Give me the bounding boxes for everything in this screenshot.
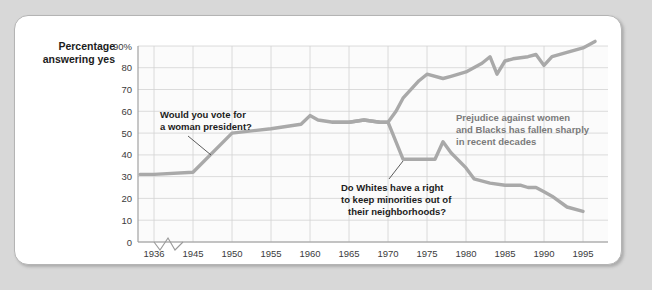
- x-tick-1960: 1960: [299, 248, 320, 259]
- x-tick-1936: 1936: [143, 248, 164, 259]
- x-tick-1990: 1990: [533, 248, 554, 259]
- x-tick-1950: 1950: [221, 248, 242, 259]
- y-axis-title-line1: Percentage: [58, 40, 115, 52]
- annotation-whites-neighborhoods-line2: to keep minorities out of: [341, 194, 452, 205]
- chart-panel: 0 10 20 30 40 50 60 70 80 90% 1936 1945 …: [14, 15, 622, 265]
- x-tick-1995: 1995: [572, 248, 593, 259]
- x-tick-1970: 1970: [377, 248, 398, 259]
- line-chart: 0 10 20 30 40 50 60 70 80 90% 1936 1945 …: [15, 16, 621, 264]
- x-tick-1985: 1985: [494, 248, 515, 259]
- y-tick-40: 40: [121, 149, 132, 160]
- annotation-prejudice-line2: and Blacks has fallen sharply: [456, 124, 590, 135]
- y-tick-90: 90%: [113, 41, 133, 52]
- y-axis-title: Percentage answering yes: [43, 40, 116, 65]
- y-tick-30: 30: [121, 171, 132, 182]
- x-axis-tick-labels: 1936 1945 1950 1955 1960 1965 1970 1975 …: [143, 248, 593, 259]
- x-tick-1975: 1975: [416, 248, 437, 259]
- y-axis-title-line2: answering yes: [43, 53, 116, 65]
- x-tick-1955: 1955: [260, 248, 281, 259]
- annotation-prejudice-line1: Prejudice against women: [456, 112, 570, 123]
- y-tick-60: 60: [121, 106, 132, 117]
- y-tick-80: 80: [121, 62, 132, 73]
- y-axis-tick-labels: 0 10 20 30 40 50 60 70 80 90%: [113, 41, 133, 248]
- x-axis-title: Year: [362, 262, 384, 264]
- annotation-whites-neighborhoods-line3: their neighborhoods?: [348, 206, 446, 217]
- x-tick-1945: 1945: [182, 248, 203, 259]
- x-tick-1965: 1965: [338, 248, 359, 259]
- annotation-woman-president-line2: a woman president?: [160, 121, 252, 132]
- y-tick-10: 10: [121, 215, 132, 226]
- annotation-prejudice-line3: in recent decades: [456, 136, 536, 147]
- y-tick-0: 0: [127, 237, 132, 248]
- y-tick-70: 70: [121, 84, 132, 95]
- annotation-woman-president-line1: Would you vote for: [160, 109, 246, 120]
- x-tick-1980: 1980: [455, 248, 476, 259]
- y-tick-20: 20: [121, 193, 132, 204]
- annotation-whites-neighborhoods-line1: Do Whites have a right: [341, 182, 444, 193]
- y-tick-50: 50: [121, 128, 132, 139]
